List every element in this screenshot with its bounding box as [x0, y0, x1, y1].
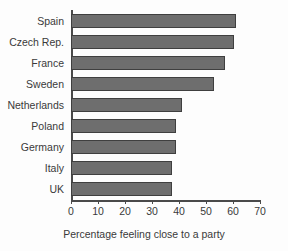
category-label: Czech Rep. — [9, 32, 64, 53]
x-axis-title: Percentage feeling close to a party — [0, 228, 288, 240]
bar — [71, 14, 236, 28]
bar — [71, 161, 172, 175]
tick-label: 70 — [254, 205, 266, 217]
bar — [71, 56, 225, 70]
tick-label: 20 — [119, 205, 131, 217]
category-label: Spain — [37, 11, 64, 32]
bar — [71, 35, 234, 49]
tick-label: 60 — [227, 205, 239, 217]
x-axis-ticks: 010203040506070 — [0, 200, 288, 222]
bar — [71, 77, 214, 91]
category-label: Sweden — [26, 74, 64, 95]
category-label: UK — [49, 179, 64, 200]
category-label: Germany — [21, 137, 64, 158]
tick-mark — [233, 200, 234, 204]
bar — [71, 140, 176, 154]
tick-mark — [206, 200, 207, 204]
tick-label: 0 — [68, 205, 74, 217]
category-axis-labels: SpainCzech Rep.FranceSwedenNetherlandsPo… — [0, 11, 68, 200]
category-label: France — [31, 53, 64, 74]
tick-mark — [152, 200, 153, 204]
tick-label: 50 — [200, 205, 212, 217]
tick-mark — [98, 200, 99, 204]
category-label: Italy — [45, 158, 64, 179]
tick-mark — [71, 200, 72, 204]
tick-mark — [179, 200, 180, 204]
tick-label: 10 — [92, 205, 104, 217]
tick-label: 40 — [173, 205, 185, 217]
tick-label: 30 — [146, 205, 158, 217]
bar — [71, 119, 176, 133]
tick-mark — [125, 200, 126, 204]
plot-area — [71, 11, 260, 200]
category-label: Netherlands — [7, 95, 64, 116]
category-label: Poland — [31, 116, 64, 137]
bar-chart: SpainCzech Rep.FranceSwedenNetherlandsPo… — [0, 0, 288, 251]
tick-mark — [260, 200, 261, 204]
bar-series — [71, 11, 260, 200]
bar — [71, 182, 172, 196]
bar — [71, 98, 182, 112]
